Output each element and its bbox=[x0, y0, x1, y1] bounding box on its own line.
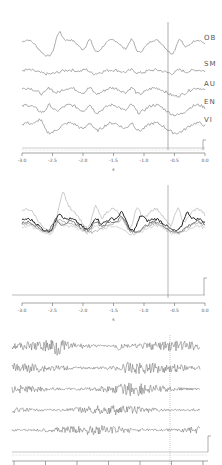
x-tick-label: -1.0 bbox=[140, 308, 149, 313]
x-tick-label: -0.5 bbox=[170, 158, 179, 163]
hf-trace bbox=[12, 383, 200, 396]
top-chart: OBSMAUENVI-3.0-2.5-2.0-1.5-1.0-0.50.0s bbox=[0, 0, 222, 180]
panel-top-stacked-traces: OBSMAUENVI-3.0-2.5-2.0-1.5-1.0-0.50.0s bbox=[0, 0, 222, 180]
x-tick-label: -0.5 bbox=[170, 308, 179, 313]
hf-trace bbox=[12, 406, 200, 416]
x-tick-label: 0.0 bbox=[201, 308, 208, 313]
hf-trace bbox=[12, 362, 200, 373]
x-axis-label: s bbox=[112, 317, 115, 322]
channel-label-vi: VI bbox=[204, 116, 213, 124]
bottom-chart: -3.0-2.5-2.0-1.5-1.0-0.50.0s bbox=[0, 300, 222, 465]
channel-label-sm: SM bbox=[204, 60, 216, 68]
channel-label-au: AU bbox=[204, 80, 216, 88]
trace-ob bbox=[22, 31, 205, 56]
middle-chart bbox=[0, 180, 222, 300]
calibration-bar bbox=[204, 278, 207, 295]
x-tick-label: -1.5 bbox=[109, 308, 118, 313]
calibration-bar bbox=[208, 436, 211, 452]
trace-au bbox=[22, 87, 205, 97]
x-tick-label: -2.5 bbox=[48, 158, 57, 163]
channel-label-en: EN bbox=[204, 98, 216, 106]
panel-middle-superimposed-traces bbox=[0, 180, 222, 300]
superimposed-trace bbox=[22, 193, 205, 231]
channel-label-ob: OB bbox=[204, 34, 216, 42]
superimposed-trace bbox=[22, 211, 205, 232]
x-tick-label: 0.0 bbox=[201, 158, 208, 163]
x-tick-label: -1.0 bbox=[140, 158, 149, 163]
hf-trace bbox=[12, 425, 200, 434]
x-axis-label: s bbox=[112, 167, 115, 172]
x-tick-label: -3.0 bbox=[18, 308, 27, 313]
x-tick-label: -2.5 bbox=[48, 308, 57, 313]
trace-vi bbox=[22, 119, 205, 134]
trace-sm bbox=[22, 69, 205, 76]
hf-trace bbox=[12, 340, 200, 355]
panel-bottom-hf-traces: -3.0-2.5-2.0-1.5-1.0-0.50.0s bbox=[0, 300, 222, 465]
x-tick-label: -2.0 bbox=[79, 158, 88, 163]
trace-en bbox=[22, 104, 205, 116]
calibration-bar bbox=[203, 140, 206, 150]
x-tick-label: -1.5 bbox=[109, 158, 118, 163]
x-tick-label: -2.0 bbox=[79, 308, 88, 313]
x-tick-label: -3.0 bbox=[18, 158, 27, 163]
